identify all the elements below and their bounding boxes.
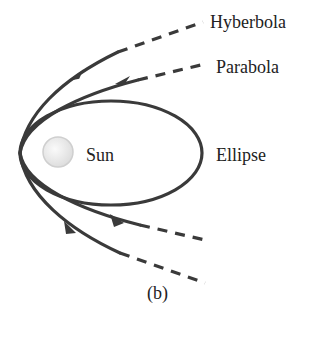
parabola-dashed-outgoing: [140, 225, 205, 240]
hyperbola-dashed-incoming: [118, 22, 203, 52]
sun-icon: [43, 137, 73, 167]
parabola-dashed-incoming: [138, 64, 205, 80]
hyperbola-label: Hyberbola: [210, 12, 286, 32]
parabola-label: Parabola: [216, 57, 279, 77]
sun-label: Sun: [86, 145, 114, 165]
orbit-diagram: Hyberbola Parabola Ellipse Sun (b): [0, 0, 317, 340]
ellipse-label: Ellipse: [216, 145, 266, 165]
hyperbola-dashed-outgoing: [120, 253, 205, 283]
figure-caption: (b): [147, 283, 168, 304]
